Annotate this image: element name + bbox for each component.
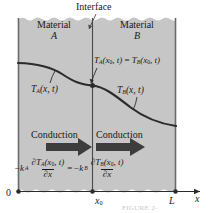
flux-equals: = [67,164,72,173]
flux-rhs-numerator: ∂TB(x0, t) [89,158,126,168]
flux-lhs-num-args-tail: , t) [54,157,64,167]
tick-point-x0 [90,189,95,194]
eq-rhs-args-tail: , t) [150,55,160,65]
flux-lhs-fraction: ∂TA(x0, t) ∂x [30,158,67,179]
eq-equals: = [124,55,129,65]
tick-point-L [173,189,178,194]
material-b-title: Material [120,19,154,30]
flux-lhs-k: −k [14,164,24,173]
flux-lhs-k-sub: A [25,166,28,172]
interface-conduction-figure [0,0,210,213]
flux-lhs-numerator: ∂TA(x0, t) [30,158,67,168]
x-axis-label: x [195,194,199,204]
tb-curve-label: TB(x, t) [117,86,144,96]
flux-rhs-k-sub: B [84,166,87,172]
figure-caption: FIGURE 2- [122,205,158,212]
axis-tick-label-L: L [169,196,175,206]
ta-args: (x, t) [40,84,58,94]
conduction-label-right: Conduction [96,130,143,140]
flux-rhs-k: −k [73,164,83,173]
x0-subscript: 0 [99,199,102,206]
flux-rhs-denominator: ∂x [101,169,113,179]
material-a-label: Material A [37,20,71,41]
flux-rhs-num-args-tail: , t) [113,157,123,167]
flux-rhs-num-partial: ∂T [91,157,100,167]
interface-temperature-point [90,83,95,88]
axis-tick-label-x0: x0 [95,196,103,207]
flux-lhs-num-partial: ∂T [32,157,41,167]
interface-equality-equation: TA(x0, t) = TB(x0, t) [94,56,160,66]
flux-lhs-denominator: ∂x [42,169,54,179]
material-a-letter: A [37,31,71,41]
conduction-label-left: Conduction [31,130,78,140]
tick-point-origin [16,189,21,194]
tb-args: (x, t) [126,85,144,95]
flux-rhs-num-args: (x [104,157,111,167]
flux-rhs-fraction: ∂TB(x0, t) ∂x [89,158,126,179]
eq-lhs-args-tail: , t) [112,55,122,65]
interface-label: Interface [76,2,112,12]
axis-tick-label-origin: 0 [6,188,11,198]
material-b-letter: B [120,31,154,41]
material-b-label: Material B [120,20,154,41]
material-a-title: Material [37,19,71,30]
flux-continuity-equation: −kA ∂TA(x0, t) ∂x = −kB ∂TB(x0, t) ∂x [14,158,125,179]
ta-curve-label: TA(x, t) [31,85,58,95]
